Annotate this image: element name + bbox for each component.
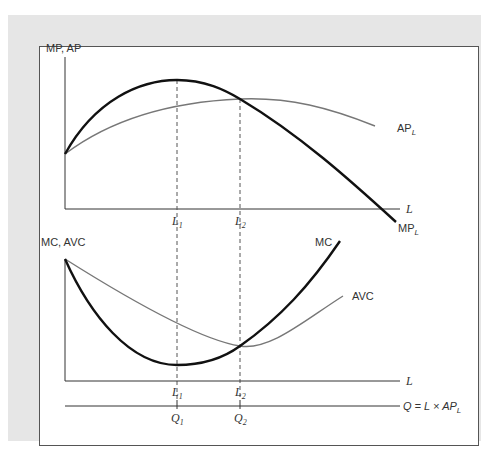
mp-curve-label: MPL <box>398 222 419 237</box>
top-y-axis-label: MP, AP <box>46 42 81 54</box>
bottom-y-axis-label: MC, AVC <box>41 236 85 248</box>
mc-curve <box>65 241 340 365</box>
production-cost-diagram: MP, AP L L1 L2 APL MPL MC, AVC L L <box>0 0 499 457</box>
quantity-axis-label: Q = L × APL <box>403 400 461 415</box>
bottom-tick-l2: L2 <box>234 385 246 401</box>
top-tick-l1: L1 <box>171 214 183 230</box>
mc-curve-label: MC <box>315 236 332 248</box>
top-x-axis-label: L <box>405 202 413 216</box>
avc-curve <box>65 259 343 347</box>
bottom-tick-l1: L1 <box>171 385 183 401</box>
top-tick-l2: L2 <box>234 214 246 230</box>
top-panel: MP, AP L L1 L2 APL MPL <box>46 42 419 400</box>
avc-curve-label: AVC <box>352 290 374 302</box>
mp-curve <box>65 80 396 222</box>
ap-curve-label: APL <box>397 122 416 137</box>
ap-curve <box>65 99 375 154</box>
quantity-tick-q1: Q1 <box>171 411 184 427</box>
bottom-x-axis-label: L <box>405 374 413 388</box>
bottom-panel: MC, AVC L L1 L2 Q1 Q2 Q = L × APL MC AVC <box>41 236 461 427</box>
quantity-tick-q2: Q2 <box>234 411 247 427</box>
